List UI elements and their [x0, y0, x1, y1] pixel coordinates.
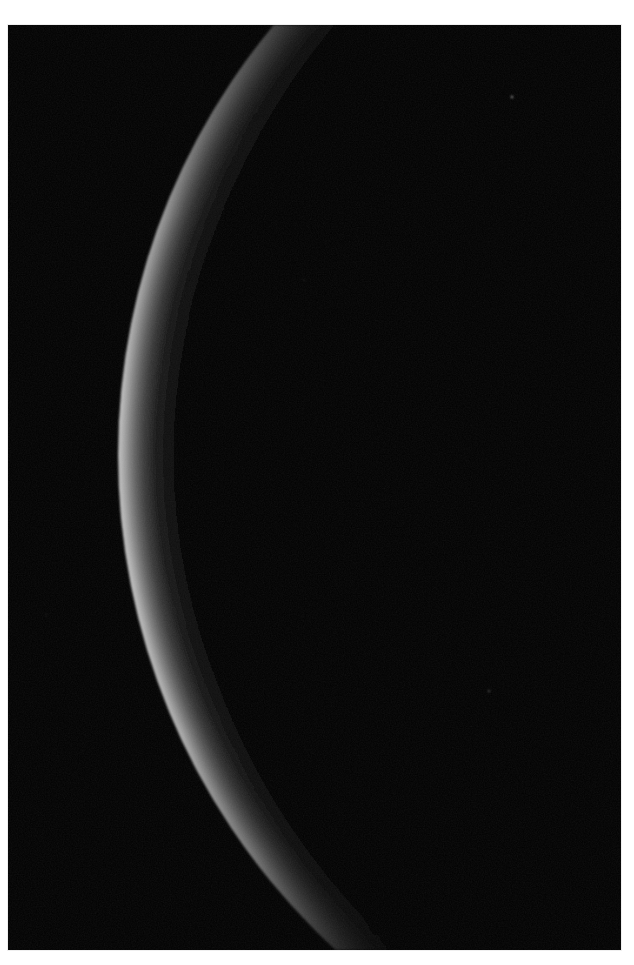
page-root: Crescent limb of a planetary body: [0, 0, 634, 965]
crescent-photograph: [8, 25, 621, 950]
film-grain-overlay: [8, 25, 621, 950]
photograph-frame: Crescent limb of a planetary body: [8, 25, 621, 950]
